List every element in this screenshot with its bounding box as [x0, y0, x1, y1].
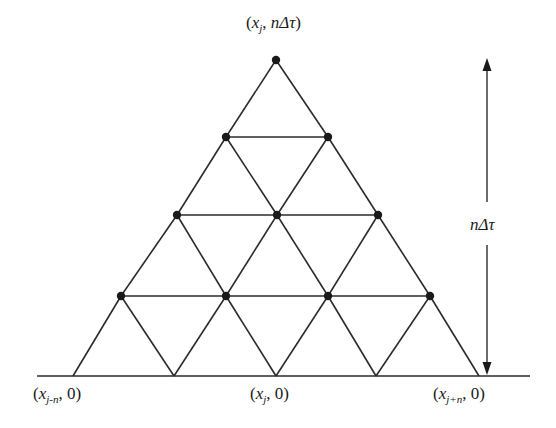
lattice-edge-down-right: [430, 296, 479, 376]
lattice-edge-down-left: [328, 215, 378, 296]
paren-close: ): [295, 13, 301, 32]
height-label: nΔτ: [470, 216, 495, 233]
lattice-node: [173, 211, 181, 219]
bottom-center-label: (xj, 0): [250, 385, 289, 405]
lattice-node: [374, 211, 382, 219]
lattice-edge-down-left: [121, 215, 177, 296]
lattice-edge-down-right: [328, 137, 378, 215]
paren-close: ): [479, 384, 485, 403]
lattice-nodes: [117, 56, 434, 300]
bottom-left-label: (xj-n, 0): [33, 385, 81, 405]
apex-label: (xj, nΔτ): [246, 14, 301, 34]
time-value: 0: [275, 384, 284, 403]
separator: ,: [262, 13, 271, 32]
lattice-edge-down-left: [174, 296, 226, 376]
lattice-node: [324, 292, 332, 300]
bottom-right-label: (xj+n, 0): [433, 385, 485, 405]
lattice-edge-down-left: [277, 137, 328, 215]
lattice-node: [222, 292, 230, 300]
lattice-edge-down-left: [376, 296, 430, 376]
lattice-node: [273, 211, 281, 219]
time-value: nΔτ: [271, 13, 296, 32]
subscript: j+n: [446, 393, 462, 405]
lattice-node: [272, 56, 280, 64]
lattice-edge-down-left: [276, 296, 328, 376]
lattice-node: [324, 133, 332, 141]
time-value: 0: [471, 384, 480, 403]
lattice-edge-down-right: [226, 137, 277, 215]
height-value: nΔτ: [470, 215, 495, 234]
lattice-node: [426, 292, 434, 300]
arrow-down-icon: [483, 362, 492, 375]
arrow-up-icon: [483, 58, 492, 71]
lattice-node: [117, 292, 125, 300]
lattice-edge-down-right: [378, 215, 430, 296]
paren-close: ): [75, 384, 81, 403]
lattice-edge-down-left: [226, 60, 276, 137]
separator: ,: [58, 384, 67, 403]
lattice-edge-down-left: [226, 215, 277, 296]
lattice-edge-down-right: [226, 296, 276, 376]
lattice-edge-down-left: [177, 137, 226, 215]
subscript: j-n: [46, 393, 58, 405]
lattice-diagram: [0, 0, 556, 428]
lattice-edge-down-right: [177, 215, 226, 296]
lattice-edge-down-right: [276, 60, 328, 137]
separator: ,: [266, 384, 275, 403]
lattice-edge-down-right: [328, 296, 376, 376]
lattice-edge-down-right: [277, 215, 328, 296]
lattice-edge-down-right: [121, 296, 174, 376]
separator: ,: [462, 384, 471, 403]
paren-close: ): [283, 384, 289, 403]
lattice-edge-down-left: [73, 296, 121, 376]
lattice-node: [222, 133, 230, 141]
